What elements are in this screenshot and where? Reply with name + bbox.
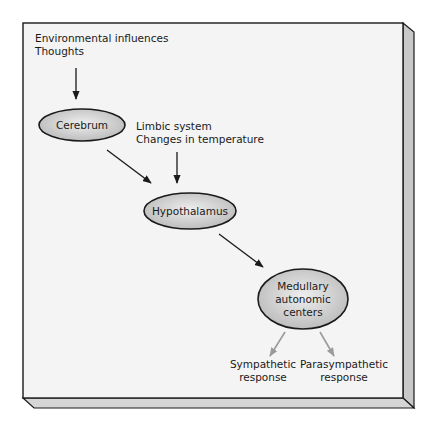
input-changes-in-temperature: Changes in temperature [136, 133, 264, 145]
output-parasympathetic-line1: Parasympathetic [300, 358, 388, 370]
node-hypothalamus-label: Hypothalamus [152, 205, 228, 217]
node-medullary-label-line3: centers [283, 306, 322, 318]
diagram-canvas: Environmental influences Thoughts Limbic… [0, 0, 432, 430]
input-thoughts: Thoughts [34, 45, 84, 57]
node-medullary-label-line2: autonomic [275, 293, 331, 305]
input-environmental-influences: Environmental influences [35, 32, 168, 44]
node-cerebrum: Cerebrum [39, 109, 125, 141]
panel-bottom-bevel [23, 398, 414, 408]
output-sympathetic-line1: Sympathetic [230, 358, 296, 370]
node-hypothalamus: Hypothalamus [144, 193, 236, 229]
node-medullary-autonomic-centers: Medullary autonomic centers [258, 269, 348, 329]
panel-right-bevel [403, 23, 414, 408]
node-medullary-label-line1: Medullary [277, 280, 329, 292]
output-sympathetic-line2: response [239, 371, 287, 383]
output-parasympathetic-line2: response [320, 371, 368, 383]
node-cerebrum-label: Cerebrum [56, 119, 108, 131]
input-limbic-system: Limbic system [136, 120, 212, 132]
output-sympathetic: Sympathetic response [230, 358, 296, 383]
